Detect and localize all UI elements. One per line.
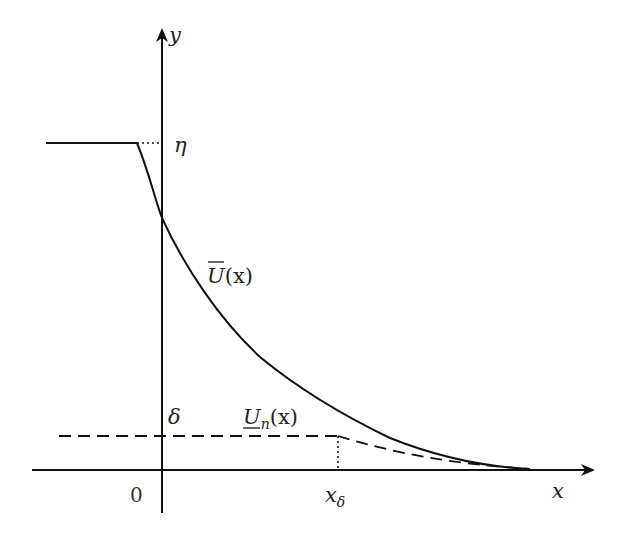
lower-curve-sub: n xyxy=(261,416,270,432)
x-axis-label: x xyxy=(552,479,564,503)
svg-text:U(x): U(x) xyxy=(207,264,253,288)
x-delta-main: x xyxy=(325,483,337,507)
upper-curve-name: U xyxy=(207,264,226,288)
lower-curve-name: U xyxy=(243,405,262,429)
origin-label: 0 xyxy=(130,483,143,507)
lower-curve-label: Un(x) xyxy=(243,405,298,432)
x-delta-sub: δ xyxy=(337,494,345,510)
eta-label: η xyxy=(174,133,187,157)
upper-curve-arg: (x) xyxy=(225,264,253,288)
upper-curve xyxy=(137,143,530,469)
upper-curve-label: U(x) xyxy=(207,262,253,288)
x-delta-label: xδ xyxy=(325,483,345,510)
lower-curve-arg: (x) xyxy=(270,405,298,429)
delta-label: δ xyxy=(168,405,181,429)
diagram-canvas: y x 0 η δ U(x) Un(x) xδ xyxy=(0,0,624,542)
y-axis-label: y xyxy=(168,23,182,47)
